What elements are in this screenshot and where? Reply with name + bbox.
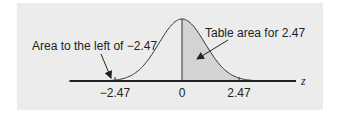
left-tail-arrow (101, 54, 111, 78)
left-tail-annotation: Area to the left of −2.47 (32, 39, 157, 53)
tick-label-2.47: 2.47 (227, 86, 251, 100)
table-area-annotation: Table area for 2.47 (205, 26, 305, 40)
normal-curve-diagram: −2.47 0 2.47 z Area to the left of −2.47… (0, 0, 337, 118)
tick-label-0: 0 (179, 86, 186, 100)
tick-label-neg-2.47: −2.47 (100, 86, 131, 100)
z-axis-label: z (300, 74, 306, 88)
